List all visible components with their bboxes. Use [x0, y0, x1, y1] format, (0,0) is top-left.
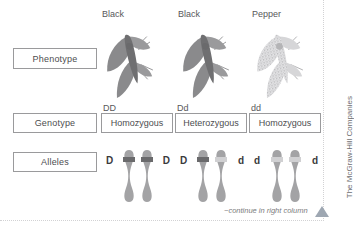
allele-letter-right-2: d	[312, 155, 318, 166]
genotype-name-1: Heterozygous	[183, 118, 239, 128]
triangle-marker-icon	[315, 206, 329, 217]
phenotype-name-0: Black	[102, 9, 124, 19]
row-label-phenotype-text: Phenotype	[33, 54, 78, 64]
allele-pair-2: d d	[249, 148, 323, 208]
allele-pair-1: D d	[175, 148, 249, 208]
genotype-code-2: dd	[251, 103, 261, 113]
allele-letter-right-1: d	[238, 155, 244, 166]
allele-letter-left-0: D	[106, 155, 113, 166]
continue-note: ~continue in right column	[224, 206, 308, 215]
genotype-box-1: Heterozygous	[175, 113, 247, 133]
genotype-name-0: Homozygous	[111, 118, 164, 128]
genotype-code-1: Dd	[177, 103, 189, 113]
row-label-genotype: Genotype	[13, 113, 97, 133]
publisher-credit: The McGraw-Hill Companies	[345, 96, 354, 198]
genotype-box-0: Homozygous	[101, 113, 173, 133]
allele-letter-right-0: D	[163, 155, 170, 166]
bottom-dotted-rule	[0, 220, 322, 221]
genotype-code-0: DD	[103, 103, 116, 113]
row-label-phenotype: Phenotype	[13, 48, 97, 69]
row-label-genotype-text: Genotype	[35, 118, 76, 128]
row-label-alleles-text: Alleles	[41, 157, 69, 167]
genotype-box-2: Homozygous	[249, 113, 321, 133]
row-label-alleles: Alleles	[13, 152, 97, 172]
allele-pair-0: D D	[101, 148, 175, 208]
genotype-name-2: Homozygous	[259, 118, 312, 128]
right-dotted-rule	[323, 0, 324, 221]
phenotype-name-1: Black	[178, 9, 200, 19]
dark-moth-illustration-1	[172, 22, 246, 104]
dark-moth-illustration-0	[96, 22, 170, 104]
phenotype-name-2: Pepper	[252, 9, 281, 19]
peppered-moth-illustration-2	[246, 22, 320, 104]
allele-letter-left-2: d	[254, 155, 260, 166]
allele-letter-left-1: D	[180, 155, 187, 166]
